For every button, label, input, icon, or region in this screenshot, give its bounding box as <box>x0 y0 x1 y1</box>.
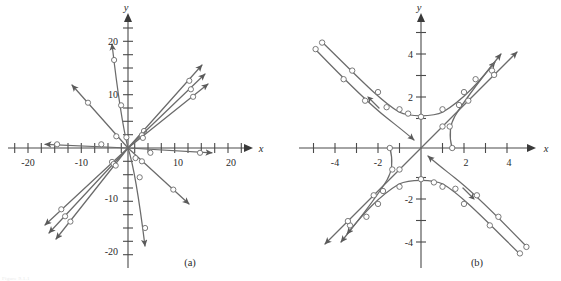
panel-b-axes <box>299 13 536 268</box>
panel-a-xtick-label-1: -10 <box>75 157 88 168</box>
panel-a-ytick-label-2: -10 <box>105 193 118 204</box>
phase-portrait-panel-b: -4 -2 2 4 4 2 -2 -4 x y (b) <box>281 0 561 281</box>
panel-a-ytick-label-3: -20 <box>105 246 118 257</box>
panel-a-ytick-label-0: 20 <box>108 36 118 47</box>
panel-a-plot: -20 -10 10 20 20 10 -10 -20 x y (a) <box>0 0 280 281</box>
panel-b-xtick-label-1: -2 <box>374 157 382 168</box>
panel-b-caption: (b) <box>471 257 484 269</box>
panel-b-ytick-label-1: 2 <box>408 92 413 103</box>
figure-footnote: Figure 9.1.1 <box>2 276 30 281</box>
figure-container: -20 -10 10 20 20 10 -10 -20 x y (a) <box>0 0 561 281</box>
panel-b-x-axis-label: x <box>543 143 549 154</box>
panel-a-ytick-label-1: 10 <box>108 89 118 100</box>
panel-b-xtick-label-3: 4 <box>507 157 512 168</box>
panel-b-y-axis-label: y <box>416 2 422 13</box>
panel-a-x-axis-label: x <box>258 143 264 154</box>
panel-b-plot: -4 -2 2 4 4 2 -2 -4 x y (b) <box>281 0 561 281</box>
panel-a-axes <box>8 13 253 268</box>
panel-a-xtick-label-0: -20 <box>21 157 34 168</box>
panel-a-xtick-label-3: 20 <box>226 157 236 168</box>
panel-b-ytick-label-0: 4 <box>408 49 413 60</box>
panel-a-caption: (a) <box>184 257 196 269</box>
panel-b-ytick-label-2: -2 <box>405 194 413 205</box>
panel-b-xtick-label-2: 2 <box>464 157 469 168</box>
panel-b-ytick-label-3: -4 <box>405 237 413 248</box>
panel-b-xtick-label-0: -4 <box>331 157 339 168</box>
panel-a-y-axis-label: y <box>123 2 129 13</box>
phase-portrait-panel-a: -20 -10 10 20 20 10 -10 -20 x y (a) <box>0 0 280 281</box>
panel-a-xtick-label-2: 10 <box>173 157 183 168</box>
